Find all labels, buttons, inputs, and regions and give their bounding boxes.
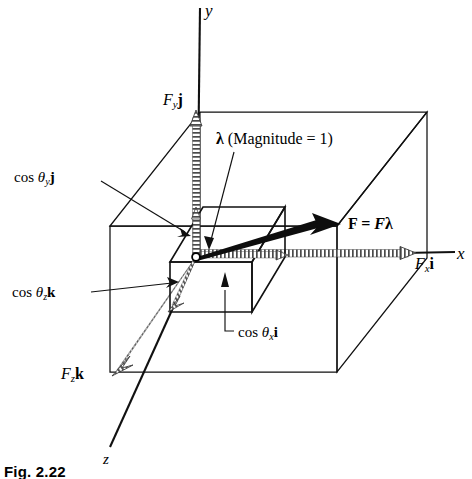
cos-z-unit: k [47,284,55,300]
axis-label-z: z [103,452,109,467]
label-force-y-component: Fyj [163,92,183,110]
figure-3d-direction-cosines: y x z Fyj Fxi Fzk λ (Magnitude = 1) F = … [0,0,472,479]
lambda-magnitude-note: (Magnitude = 1) [224,130,333,147]
label-direction-cosine-y: cos θyj [14,170,55,187]
leader-lines [91,152,234,331]
axis-label-y: y [205,2,213,19]
label-force-x-component: Fxi [415,256,434,274]
inner-unit-cube [170,207,285,312]
axis-label-x: x [457,245,465,262]
origin-point-marker [192,253,200,261]
lambda-symbol: λ [216,130,224,147]
axis-lines [110,8,455,447]
cos-z-prefix: cos [12,284,36,300]
component-vector-fz [112,253,199,376]
label-force-x-unit: i [430,255,434,272]
leader-cos-theta-z [91,283,172,292]
cos-y-prefix: cos [14,169,38,185]
force-equation-lambda: λ [385,215,393,232]
force-equation-equals: = [357,215,374,232]
label-force-x-main: F [415,255,425,272]
label-force-y-unit: j [178,91,183,108]
cos-x-unit: i [274,324,278,340]
outer-box-front-face [110,226,337,372]
figure-vector-graphics [0,0,472,479]
label-force-z-component: Fzk [61,366,84,384]
force-equation-scalar-f: F [374,215,385,232]
label-force-z-main: F [61,365,71,382]
cos-y-unit: j [50,169,55,185]
label-direction-cosine-x: cos θxi [238,325,278,342]
label-force-equation: F = Fλ [348,216,393,232]
figure-caption: Fig. 2.22 [4,464,66,479]
unit-component-cos-theta-y [192,207,201,257]
outer-box-right-face [337,112,427,372]
label-force-y-main: F [163,91,173,108]
label-lambda-unit-vector: λ (Magnitude = 1) [216,131,333,147]
label-force-z-unit: k [75,365,84,382]
leader-lambda [211,152,234,240]
cos-x-prefix: cos [238,324,262,340]
label-direction-cosine-z: cos θzk [12,285,55,302]
force-equation-vector-f: F [348,215,357,232]
leader-cos-theta-y [101,181,185,232]
inner-cube-right-face [252,207,285,312]
leader-cos-theta-x [225,290,234,331]
